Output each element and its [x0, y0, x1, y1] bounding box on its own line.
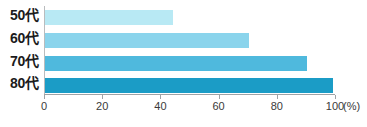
x-tick-label-40: 40	[154, 100, 166, 112]
x-tick-label-80: 80	[271, 100, 283, 112]
x-axis-line	[44, 94, 335, 95]
x-tick-0	[44, 95, 45, 99]
x-tick-80	[277, 95, 278, 99]
bar-row	[45, 56, 307, 71]
x-tick-20	[102, 95, 103, 99]
x-tick-100	[335, 95, 336, 99]
plot-area	[44, 6, 344, 94]
bar-row	[45, 33, 249, 48]
category-label-0: 50代	[10, 4, 39, 27]
bar-70dai	[45, 56, 307, 71]
category-axis-labels: 50代 60代 70代 80代	[0, 0, 42, 94]
category-label-3: 80代	[10, 72, 39, 95]
x-tick-60	[219, 95, 220, 99]
x-tick-label-0: 0	[41, 100, 47, 112]
bar-50dai	[45, 10, 173, 25]
bar-row	[45, 10, 173, 25]
bar-80dai	[45, 78, 333, 93]
bar-chart: 50代 60代 70代 80代 020406080100 (%)	[0, 0, 367, 127]
x-tick-40	[160, 95, 161, 99]
x-tick-label-20: 20	[96, 100, 108, 112]
bar-row	[45, 78, 333, 93]
category-label-1: 60代	[10, 27, 39, 50]
category-label-2: 70代	[10, 50, 39, 73]
x-tick-label-60: 60	[212, 100, 224, 112]
x-axis-unit-label: (%)	[343, 100, 360, 112]
x-tick-label-100: 100	[326, 100, 344, 112]
bar-60dai	[45, 33, 249, 48]
